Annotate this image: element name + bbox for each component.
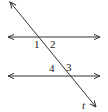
angle-label-1: 1	[34, 38, 40, 50]
angle-label-4: 4	[49, 62, 55, 74]
angle-label-2: 2	[50, 38, 56, 50]
diagram-canvas: 1 2 4 3 t	[0, 0, 108, 112]
transversal-line	[10, 2, 96, 107]
angle-label-3: 3	[66, 61, 72, 73]
transversal-label-t: t	[82, 99, 86, 111]
